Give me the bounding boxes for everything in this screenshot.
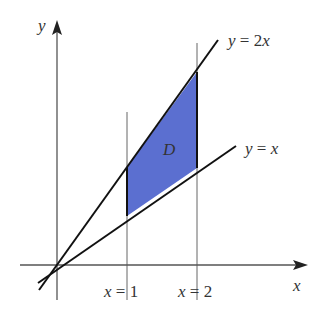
label-y-equals-x: y = x <box>243 139 279 158</box>
region-diagram: y x D y = 2x y = x x = 1 x = 2 <box>0 0 328 312</box>
x-axis-label: x <box>292 276 301 295</box>
region-d <box>127 72 197 216</box>
y-axis-label: y <box>36 16 46 35</box>
region-label: D <box>162 140 176 159</box>
label-x-equals-2: x = 2 <box>177 282 212 301</box>
label-x-equals-1: x = 1 <box>103 282 138 301</box>
label-y-equals-2x: y = 2x <box>226 31 270 50</box>
